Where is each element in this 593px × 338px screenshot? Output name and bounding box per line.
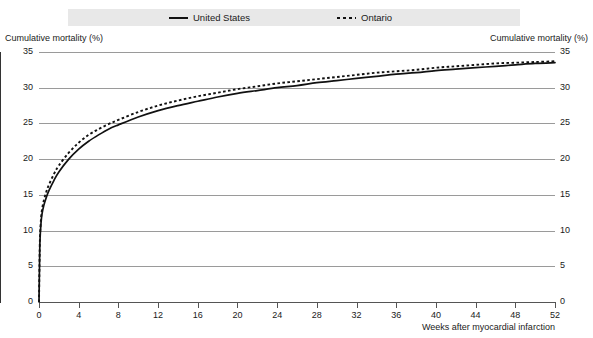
legend-label-united-states: United States (193, 12, 250, 23)
x-tick (79, 303, 80, 308)
legend-solid-line-icon (169, 13, 188, 22)
y-tick-label-r: 0 (560, 296, 582, 306)
x-axis-title: Weeks after myocardial infarction (422, 322, 555, 332)
x-tick (237, 303, 238, 308)
y-tick-label-l: 10 (11, 225, 33, 235)
x-tick (118, 303, 119, 308)
x-tick-label: 40 (421, 310, 451, 320)
x-tick-label: 44 (461, 310, 491, 320)
x-tick-label: 36 (381, 310, 411, 320)
x-tick (436, 303, 437, 308)
y-tick-label-r: 35 (560, 46, 582, 56)
y-tick-label-l: 15 (11, 189, 33, 199)
legend-item-united-states: United States (169, 9, 250, 26)
x-tick (317, 303, 318, 308)
y-axis-title-left: Cumulative mortality (%) (5, 33, 103, 43)
x-tick-label: 0 (24, 310, 54, 320)
x-tick (396, 303, 397, 308)
x-tick-label: 28 (302, 310, 332, 320)
x-tick (39, 303, 40, 308)
x-tick-label: 52 (540, 310, 570, 320)
y-tick-label-l: 25 (11, 117, 33, 127)
line-ontario (39, 61, 555, 302)
x-tick (515, 303, 516, 308)
x-tick (277, 303, 278, 308)
legend-item-ontario: Ontario (337, 9, 392, 26)
x-tick (476, 303, 477, 308)
chart-page: United States Ontario Cumulative mortali… (0, 0, 593, 338)
y-tick-label-r: 20 (560, 153, 582, 163)
y-tick-label-l: 5 (11, 260, 33, 270)
y-tick-label-r: 15 (560, 189, 582, 199)
x-tick-label: 32 (342, 310, 372, 320)
legend-label-ontario: Ontario (361, 12, 392, 23)
y-axis-title-right: Cumulative mortality (%) (490, 33, 588, 43)
y-tick-label-r: 25 (560, 117, 582, 127)
y-tick-label-l: 30 (11, 82, 33, 92)
plot-area (39, 52, 555, 302)
y-tick-label-l: 0 (11, 296, 33, 306)
y-tick-label-r: 30 (560, 82, 582, 92)
x-axis-line (39, 302, 556, 303)
x-tick (555, 303, 556, 308)
y-tick-label-r: 5 (560, 260, 582, 270)
line-united-states (39, 63, 555, 302)
x-tick-label: 48 (500, 310, 530, 320)
x-tick-label: 16 (183, 310, 213, 320)
x-tick-label: 20 (222, 310, 252, 320)
x-tick-label: 24 (262, 310, 292, 320)
x-tick (357, 303, 358, 308)
x-tick (158, 303, 159, 308)
y-tick-label-l: 20 (11, 153, 33, 163)
y-axis-line (0, 52, 1, 303)
y-tick-label-l: 35 (11, 46, 33, 56)
y-tick-label-r: 10 (560, 225, 582, 235)
legend-band (68, 9, 520, 26)
x-tick-label: 4 (64, 310, 94, 320)
legend-dotted-line-icon (337, 13, 356, 22)
x-tick-label: 8 (103, 310, 133, 320)
x-tick (198, 303, 199, 308)
series-lines (39, 52, 555, 302)
x-tick-label: 12 (143, 310, 173, 320)
